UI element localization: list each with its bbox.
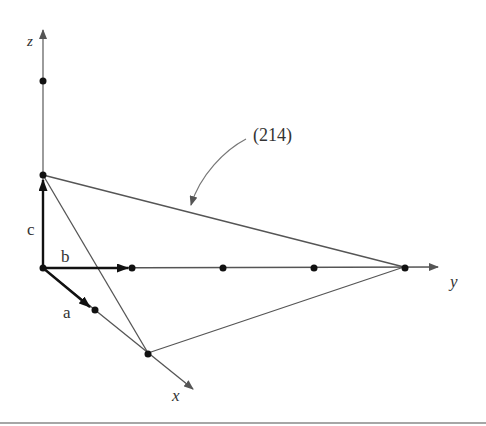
lattice-point [92, 307, 99, 314]
plane-edge-zy [43, 175, 404, 267]
y-axis-label: y [448, 272, 458, 291]
plane-label: (214) [253, 125, 292, 146]
vector-c-label: c [27, 220, 35, 239]
lattice-point [40, 78, 47, 85]
plane-edge-xy [148, 267, 404, 353]
lattice-point [40, 172, 47, 179]
plane-label-leader [191, 139, 246, 205]
vector-b-label: b [61, 247, 70, 266]
lattice-point [402, 265, 409, 272]
lattice-point [145, 351, 152, 358]
vector-a [43, 268, 90, 307]
lattice-point [40, 265, 47, 272]
z-axis-label: z [26, 33, 33, 49]
vector-a-label: a [63, 303, 71, 322]
crystal-plane-diagram: z y x c b a (214) [0, 0, 486, 426]
x-axis-label: x [171, 386, 180, 405]
lattice-point [220, 265, 227, 272]
lattice-point [311, 265, 318, 272]
plane-edge-zx [43, 175, 148, 353]
lattice-point [129, 265, 136, 272]
